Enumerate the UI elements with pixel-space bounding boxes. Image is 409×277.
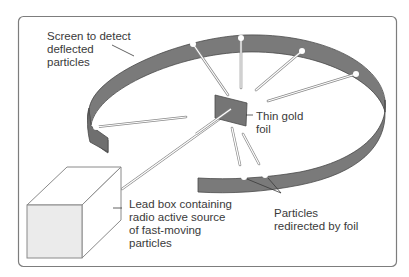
label-screen: Screen to detect deflected particles [47, 30, 131, 69]
label-lead-box: Lead box containing radio active source … [129, 198, 232, 250]
label-redirected: Particles redirected by foil [274, 207, 358, 233]
label-foil: Thin gold foil [256, 110, 303, 136]
